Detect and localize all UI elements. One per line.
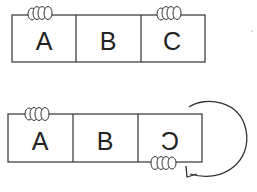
bottom-panel-c-mirrored-label: C: [161, 127, 179, 155]
bottom-panel-b-label: B: [97, 127, 114, 155]
finger-icon-bottom-a: [25, 108, 49, 121]
finger-icon-top-c: [157, 7, 181, 21]
stray-dot: [251, 30, 253, 32]
finger-icon-top-a: [28, 7, 52, 21]
curved-arrow-icon: [186, 101, 247, 177]
finger-icon-bottom-c: [151, 157, 176, 170]
top-panel-c-label: C: [163, 27, 181, 55]
top-panel-b-label: B: [100, 27, 117, 55]
flip-strip-diagram: A B C A B C: [0, 0, 257, 192]
bottom-panel-a-label: A: [32, 127, 49, 155]
top-panel-a-label: A: [36, 27, 53, 55]
